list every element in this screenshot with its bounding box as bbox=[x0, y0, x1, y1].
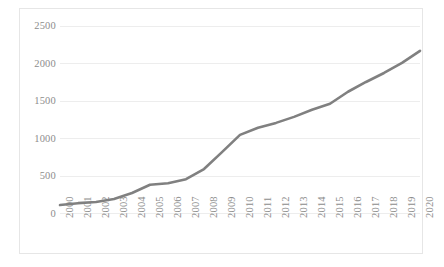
line-chart-figure: 05001000150020002500 2000200120022003200… bbox=[0, 0, 444, 267]
series-line-1 bbox=[60, 51, 420, 205]
series-line-group bbox=[0, 0, 444, 267]
